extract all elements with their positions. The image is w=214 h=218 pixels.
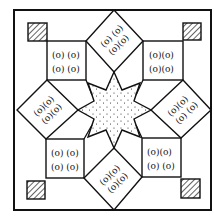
quilt-block-diagram: (o) (o) (o) (o) (o)(o) (o)(o) (o) (o) (o… bbox=[0, 0, 214, 218]
motif-square-top-right bbox=[143, 41, 183, 80]
corner-square-top-right bbox=[183, 23, 201, 40]
motif-square-top-left bbox=[47, 41, 86, 80]
motif-tr-row2: (o)(o) bbox=[149, 64, 174, 74]
motif-square-bottom-left bbox=[46, 139, 84, 178]
motif-br-row1: (o)(o) bbox=[147, 147, 172, 157]
center-star bbox=[78, 72, 151, 148]
motif-diamond-bottom bbox=[84, 148, 142, 210]
motif-diamond-left bbox=[17, 80, 78, 139]
corner-square-bottom-left bbox=[27, 181, 45, 199]
motif-bl-row2: (o) (o) bbox=[51, 162, 79, 172]
motif-tl-row2: (o) (o) bbox=[52, 64, 80, 74]
corner-square-bottom-right bbox=[181, 179, 200, 198]
motif-square-bottom-right bbox=[142, 138, 181, 177]
motif-br-row2: (o) (o) bbox=[147, 161, 175, 171]
corner-square-top-left bbox=[28, 23, 47, 41]
motif-bl-row1: (o) (o) bbox=[51, 148, 79, 158]
motif-tr-row1: (o)(o) bbox=[149, 50, 174, 60]
motif-tl-row1: (o) (o) bbox=[52, 50, 80, 60]
